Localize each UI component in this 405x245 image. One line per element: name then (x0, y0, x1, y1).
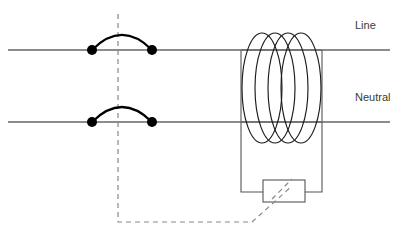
line-switch-arc (92, 35, 152, 50)
line-label: Line (355, 19, 376, 31)
neutral-switch-arc (92, 107, 152, 122)
rcd-circuit-diagram: Line Neutral (0, 0, 405, 245)
neutral-label: Neutral (355, 91, 390, 103)
neutral-switch-contact-right (147, 117, 157, 127)
trip-solenoid-box (263, 180, 305, 202)
neutral-switch[interactable] (87, 107, 157, 127)
neutral-switch-contact-left (87, 117, 97, 127)
line-switch-contact-left (87, 45, 97, 55)
line-switch-contact-right (147, 45, 157, 55)
circuit-diagram-screenshot: Line Neutral (0, 0, 405, 245)
line-switch[interactable] (87, 35, 157, 55)
